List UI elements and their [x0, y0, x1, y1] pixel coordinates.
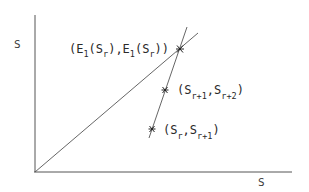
- star-marker-r-r1: [149, 126, 156, 132]
- fixed-point-label: (E1(Sr),E1(Sr)): [69, 42, 169, 59]
- diagram-canvas: S S (E1(Sr),E1(Sr)) (Sr+1,Sr+2) (Sr,Sr+1…: [0, 0, 309, 192]
- x-axis-label: S: [258, 176, 265, 189]
- y-axis-label: S: [14, 38, 21, 51]
- point-r-r1-label: (Sr,Sr+1): [163, 123, 220, 141]
- point-r1-r2-label: (Sr+1,Sr+2): [177, 83, 244, 101]
